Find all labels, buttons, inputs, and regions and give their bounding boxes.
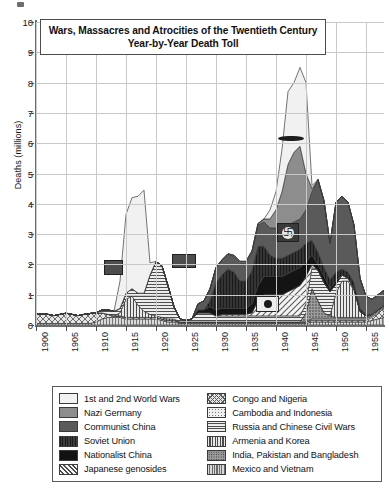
x-tick-mark bbox=[186, 326, 187, 331]
legend-label: India, Pakistan and Bangladesh bbox=[232, 450, 358, 460]
y-tick-mark bbox=[29, 52, 34, 53]
gridline-horizontal bbox=[36, 174, 384, 175]
legend-label: Cambodia and Indonesia bbox=[232, 408, 332, 418]
legend-label: Nationalist China bbox=[84, 450, 152, 460]
y-tick-mark bbox=[29, 204, 34, 205]
x-tick-mark bbox=[156, 326, 157, 331]
x-tick-label: 1900 bbox=[40, 332, 50, 352]
y-tick-mark bbox=[29, 113, 34, 114]
legend-item: India, Pakistan and Bangladesh bbox=[207, 448, 381, 462]
gridline-vertical bbox=[96, 22, 97, 325]
legend-column-left: 1st and 2nd World WarsNazi GermanyCommun… bbox=[59, 392, 207, 476]
legend-label: Russia and Chinese Civil Wars bbox=[232, 422, 355, 432]
x-tick-label: 1950 bbox=[340, 332, 350, 352]
legend-swatch bbox=[207, 450, 226, 461]
x-tick-label: 1915 bbox=[130, 332, 140, 352]
legend-item: Japanese genosides bbox=[59, 462, 207, 476]
x-tick-mark bbox=[96, 326, 97, 331]
x-tick-label: 1935 bbox=[250, 332, 260, 352]
battleship-photo-inset bbox=[278, 136, 304, 141]
x-tick-label: 1930 bbox=[220, 332, 230, 352]
legend-label: Congo and Nigeria bbox=[232, 394, 307, 404]
gridline-vertical bbox=[186, 22, 187, 325]
x-tick-label: 1925 bbox=[190, 332, 200, 352]
legend-item: Russia and Chinese Civil Wars bbox=[207, 420, 381, 434]
gridline-horizontal bbox=[36, 234, 384, 235]
gridline-vertical bbox=[216, 22, 217, 325]
y-tick-mark bbox=[29, 143, 34, 144]
x-tick-mark bbox=[336, 326, 337, 331]
gridline-vertical bbox=[246, 22, 247, 325]
gridline-horizontal bbox=[36, 143, 384, 144]
legend-item: 1st and 2nd World Wars bbox=[59, 392, 207, 406]
y-tick-mark bbox=[29, 22, 34, 23]
swastika-flag-photo-inset: 卐 bbox=[277, 223, 299, 242]
y-tick-mark bbox=[29, 325, 34, 326]
chart-area: Deaths (millions) 012345678910 卐 Wars, M… bbox=[0, 0, 389, 380]
legend-swatch bbox=[207, 421, 226, 432]
gridline-vertical bbox=[36, 22, 37, 325]
legend-label: Communist China bbox=[84, 422, 156, 432]
gridline-vertical bbox=[336, 22, 337, 325]
y-tick-mark bbox=[29, 234, 34, 235]
legend-swatch bbox=[59, 407, 78, 418]
x-axis-ticks: 1900190519101915192019251930193519401945… bbox=[36, 326, 386, 380]
x-tick-label: 1940 bbox=[280, 332, 290, 352]
legend-swatch bbox=[207, 393, 226, 404]
legend-item: Congo and Nigeria bbox=[207, 392, 381, 406]
x-tick-label: 1955 bbox=[370, 332, 380, 352]
y-axis-ticks: 012345678910 bbox=[0, 0, 33, 380]
gridline-vertical bbox=[66, 22, 67, 325]
gridline-vertical bbox=[276, 22, 277, 325]
legend-label: Japanese genosides bbox=[84, 464, 167, 474]
x-tick-mark bbox=[66, 326, 67, 331]
legend-item: Nationalist China bbox=[59, 448, 207, 462]
legend-item: Mexico and Vietnam bbox=[207, 462, 381, 476]
y-tick-mark bbox=[29, 264, 34, 265]
gridline-horizontal bbox=[36, 83, 384, 84]
x-tick-mark bbox=[306, 326, 307, 331]
x-tick-mark bbox=[216, 326, 217, 331]
x-tick-mark bbox=[36, 326, 37, 331]
legend-swatch bbox=[59, 436, 78, 447]
legend-label: Mexico and Vietnam bbox=[232, 464, 313, 474]
archive-photo-inset-1 bbox=[104, 260, 123, 275]
gridline-horizontal bbox=[36, 295, 384, 296]
legend-swatch bbox=[207, 436, 226, 447]
legend-label: Nazi Germany bbox=[84, 408, 142, 418]
legend-swatch bbox=[59, 421, 78, 432]
legend-swatch bbox=[59, 464, 78, 475]
legend-swatch bbox=[207, 464, 226, 475]
legend-item: Communist China bbox=[59, 420, 207, 434]
x-tick-label: 1920 bbox=[160, 332, 170, 352]
gridline-horizontal bbox=[36, 113, 384, 114]
x-tick-label: 1910 bbox=[100, 332, 110, 352]
legend-item: Armenia and Korea bbox=[207, 434, 381, 448]
gridline-vertical bbox=[126, 22, 127, 325]
chart-title-box: Wars, Massacres and Atrocities of the Tw… bbox=[40, 19, 326, 55]
x-tick-mark bbox=[246, 326, 247, 331]
x-tick-mark bbox=[276, 326, 277, 331]
legend-label: 1st and 2nd World Wars bbox=[84, 394, 180, 404]
x-tick-mark bbox=[366, 326, 367, 331]
legend-label: Armenia and Korea bbox=[232, 436, 309, 446]
y-tick-mark bbox=[29, 295, 34, 296]
legend-item: Soviet Union bbox=[59, 434, 207, 448]
legend-item: Nazi Germany bbox=[59, 406, 207, 420]
chart-title-line1: Wars, Massacres and Atrocities of the Tw… bbox=[49, 24, 318, 37]
gridline-horizontal bbox=[36, 204, 384, 205]
legend-label: Soviet Union bbox=[84, 436, 135, 446]
gridline-vertical bbox=[306, 22, 307, 325]
gridline-vertical bbox=[366, 22, 367, 325]
chart-legend: 1st and 2nd World WarsNazi GermanyCommun… bbox=[52, 386, 382, 482]
chart-title-line2: Year-by-Year Death Toll bbox=[128, 37, 239, 50]
x-tick-mark bbox=[126, 326, 127, 331]
legend-column-right: Congo and NigeriaCambodia and IndonesiaR… bbox=[207, 392, 381, 476]
y-tick-mark bbox=[29, 83, 34, 84]
x-tick-label: 1945 bbox=[310, 332, 320, 352]
legend-swatch bbox=[59, 393, 78, 404]
y-tick-mark bbox=[29, 174, 34, 175]
legend-swatch bbox=[207, 407, 226, 418]
legend-swatch bbox=[59, 450, 78, 461]
x-tick-label: 1905 bbox=[70, 332, 80, 352]
